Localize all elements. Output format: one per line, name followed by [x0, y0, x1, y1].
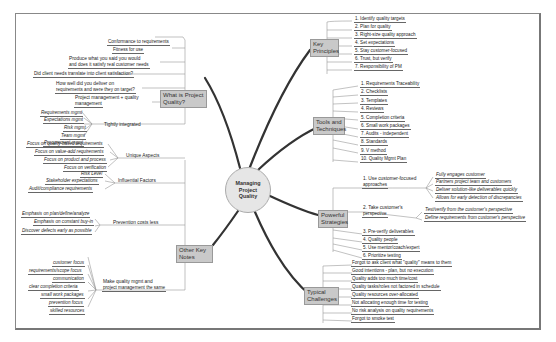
branch-what-is-quality[interactable]: What is Project Quality?: [160, 90, 207, 108]
challenge-4[interactable]: Quality tasks/roles not factored in sche…: [351, 284, 441, 291]
node-pm-line-1: Project management + quality: [75, 95, 139, 101]
node-stakeholder-expectations[interactable]: Stakeholder expectations: [45, 178, 99, 185]
challenge-8[interactable]: Forgot to smoke test: [351, 316, 395, 323]
branch-title-line-2: Challenges: [307, 296, 336, 303]
strategy-3[interactable]: 3. Pre-verify deliverables: [362, 229, 415, 236]
node-customer-focus[interactable]: customer focus: [52, 260, 85, 267]
node-tightly-integrated[interactable]: Tightly integrated: [104, 122, 141, 128]
tool-8[interactable]: 8. Standards: [360, 139, 388, 146]
strategy-2-sub-1[interactable]: Test/verify from the customer's perspect…: [424, 207, 513, 214]
strategy-1-sub-2[interactable]: Partners project team and customers: [435, 179, 512, 186]
node-requirements-mgmt[interactable]: Requirements mgmt: [40, 110, 83, 117]
branch-tools-techniques[interactable]: Tools and Techniques: [313, 117, 345, 135]
principle-2[interactable]: 2. Plan for quality: [354, 24, 392, 31]
strategy-5[interactable]: 5. Use mentor/coach/expert: [362, 245, 420, 252]
principle-4[interactable]: 4. Set expectations: [354, 40, 395, 47]
strategy-1-line-1: 1. Use customer-focused: [363, 176, 416, 182]
branch-title-line-2: Strategies: [321, 219, 345, 226]
node-expectations-mgmt[interactable]: Expectations mgmt: [43, 117, 84, 124]
node-audit-compliance[interactable]: Audit/compliance requirements: [28, 186, 93, 193]
tool-6[interactable]: 6. Small work packages: [360, 123, 411, 130]
node-fitness[interactable]: Fitness for use: [112, 47, 144, 54]
challenge-2[interactable]: Good intentions - plan, but no execution: [351, 268, 434, 275]
branch-title-line-1: Typical: [307, 289, 336, 296]
strategy-2-sub-2[interactable]: Define requirements from customer's pers…: [424, 215, 526, 222]
central-topic-line-2: Project: [235, 187, 260, 194]
branch-other-key-notes[interactable]: Other Key Notes: [176, 245, 213, 263]
tool-2[interactable]: 2. Checklists: [360, 89, 388, 96]
strategy-1-line-2[interactable]: approaches: [362, 182, 388, 189]
challenge-5[interactable]: Quality resources over-allocated: [351, 292, 419, 299]
tool-1[interactable]: 1. Requirements Traceability: [360, 81, 420, 88]
branch-title-line-2: Notes: [179, 254, 210, 261]
node-risk-level[interactable]: Risk Level: [80, 171, 103, 178]
node-requirements-scope-focus[interactable]: requirements/scope focus: [28, 268, 83, 275]
node-unique-aspects[interactable]: Unique Aspects: [126, 153, 159, 159]
principle-1[interactable]: 1. Identify quality targets: [354, 16, 406, 23]
node-produce-line-2[interactable]: and does it satisfy real customer needs: [68, 62, 150, 69]
strategy-2-line-2[interactable]: perspective: [362, 211, 388, 218]
branch-title-line-1: Other Key: [179, 247, 210, 254]
node-clear-completion[interactable]: clear completion criteria: [28, 284, 79, 291]
branch-title-line-2: Quality?: [163, 99, 204, 106]
strategy-6[interactable]: 6. Prioritize testing: [362, 253, 402, 260]
node-produce-line-1: Produce what you said you would: [69, 56, 140, 62]
strategy-1-sub-4[interactable]: Allows for early detection of discrepanc…: [435, 195, 523, 202]
node-deliver-line-2[interactable]: requirements and were they on target?: [55, 87, 136, 94]
tool-3[interactable]: 3. Templates: [360, 98, 388, 105]
strategy-4[interactable]: 4. Quality people: [362, 237, 398, 244]
tool-5[interactable]: 5. Completion criteria: [360, 115, 405, 122]
challenge-6[interactable]: Not allocating enough time for testing: [351, 300, 429, 307]
node-emphasis-buy-in[interactable]: Emphasis on constant buy-in: [33, 219, 94, 226]
strategy-1-sub-3[interactable]: Deliver solution-like deliverables quick…: [435, 187, 518, 194]
node-risk-mgmt[interactable]: Risk mgmt: [63, 125, 87, 132]
branch-title-line-1: Tools and: [316, 119, 342, 126]
node-prevention-costs[interactable]: Prevention costs less: [113, 220, 158, 226]
node-make-same-line-1: Make quality mgmt and: [103, 279, 153, 285]
node-prevention-focus[interactable]: prevention focus: [48, 300, 84, 307]
central-topic-line-1: Managing: [235, 180, 260, 187]
branch-title-line-2: Techniques: [316, 126, 342, 133]
tool-10[interactable]: 10. Quality Mgmt Plan: [360, 156, 407, 163]
tool-4[interactable]: 4. Reviews: [360, 106, 384, 113]
node-client-needs[interactable]: Did client needs translate into client s…: [33, 71, 134, 78]
node-influential-factors[interactable]: Influential Factors: [118, 178, 156, 184]
node-conformance[interactable]: Conformance to requirements: [107, 39, 170, 46]
strategy-2-line-1: 2. Take customer's: [363, 205, 403, 211]
branch-powerful-strategies[interactable]: Powerful Strategies: [318, 210, 348, 228]
node-communication[interactable]: communication: [52, 276, 85, 283]
challenge-1[interactable]: Forgot to ask client what "quality" mean…: [351, 260, 452, 267]
principle-5[interactable]: 5. Stay customer-focused: [354, 48, 408, 55]
principle-7[interactable]: 7. Responsibility of PM: [354, 64, 403, 71]
central-topic[interactable]: Managing Project Quality: [225, 167, 271, 213]
central-topic-line-3: Quality: [235, 193, 260, 200]
branch-key-principles[interactable]: Key Principles: [310, 39, 339, 57]
node-skilled-resources[interactable]: skilled resources: [49, 308, 85, 315]
strategy-1-sub-1[interactable]: Fully engages customer: [435, 172, 486, 179]
node-focus-product-process[interactable]: Focus on product and process: [43, 157, 107, 164]
node-make-same-line-2[interactable]: project management the same: [102, 285, 166, 292]
branch-title-line-1: Powerful: [321, 212, 345, 219]
branch-title-line-2: Principles: [313, 48, 336, 55]
node-emphasis-plan[interactable]: Emphasis on plan/define/analyze: [21, 211, 90, 218]
node-pm-line-2[interactable]: management: [74, 101, 103, 108]
node-focus-quality-req[interactable]: Focus on quality-based requirements: [26, 141, 104, 148]
tool-9[interactable]: 9. V method: [360, 148, 387, 155]
branch-title-line-1: Key: [313, 41, 336, 48]
node-discover-defects[interactable]: Discover defects early as possible: [21, 228, 92, 235]
principle-6[interactable]: 6. Trust, but verify: [354, 56, 393, 63]
node-deliver-line-1: How well did you deliver on: [56, 81, 114, 87]
tool-7[interactable]: 7. Audits - independent: [360, 131, 409, 138]
challenge-7[interactable]: No risk analysis on quality requirements: [351, 308, 434, 315]
node-focus-value-add[interactable]: Focus on value-add requirements: [34, 149, 104, 156]
node-team-mgmt[interactable]: Team mgmt: [60, 133, 86, 140]
principle-3[interactable]: 3. Right-size quality approach: [354, 32, 417, 39]
challenge-3[interactable]: Quality adds too much time/cost: [351, 276, 418, 283]
node-small-work-packages[interactable]: small work packages: [40, 292, 85, 299]
branch-title-line-1: What is Project: [163, 92, 204, 99]
branch-typical-challenges[interactable]: Typical Challenges: [304, 287, 339, 305]
